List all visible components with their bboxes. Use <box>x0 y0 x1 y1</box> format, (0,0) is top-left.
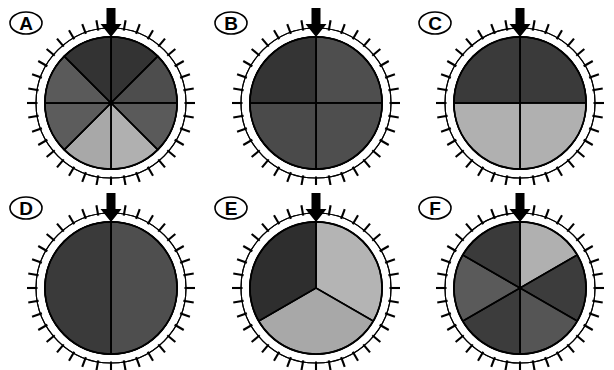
panel-b: B <box>205 0 410 185</box>
sector[interactable] <box>316 37 382 103</box>
sector[interactable] <box>316 103 382 169</box>
sector[interactable] <box>520 37 586 103</box>
sector[interactable] <box>250 103 316 169</box>
sector-diagram-e <box>205 185 410 370</box>
sector[interactable] <box>520 103 586 169</box>
sector-diagram-c <box>409 0 614 185</box>
panel-f: F <box>409 185 614 370</box>
sector[interactable] <box>454 103 520 169</box>
panel-d: D <box>0 185 205 370</box>
panel-c: C <box>409 0 614 185</box>
figure-root: ABCDEF <box>0 0 614 370</box>
sector[interactable] <box>250 37 316 103</box>
sector[interactable] <box>454 37 520 103</box>
sector-diagram-b <box>205 0 410 185</box>
panel-e: E <box>205 185 410 370</box>
sector-diagram-a <box>0 0 205 185</box>
sector-diagram-f <box>409 185 614 370</box>
panel-a: A <box>0 0 205 185</box>
sector-diagram-d <box>0 185 205 370</box>
